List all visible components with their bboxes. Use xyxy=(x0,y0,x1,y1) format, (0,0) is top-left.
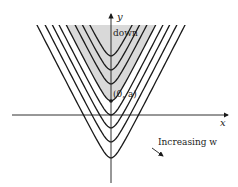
parabola-family-diagram: y x down (0, a) Increasing w xyxy=(0,0,238,187)
region-label: down xyxy=(113,28,138,38)
vertex-point xyxy=(109,99,113,103)
direction-label: Increasing w xyxy=(158,137,217,147)
point-label: (0, a) xyxy=(113,89,137,99)
x-axis-label: x xyxy=(220,117,226,128)
direction-arrow xyxy=(152,148,163,156)
y-axis-label: y xyxy=(116,11,123,22)
